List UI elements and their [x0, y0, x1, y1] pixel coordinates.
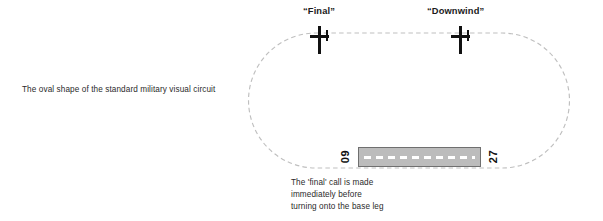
- aircraft-plan-icon-downwind: [450, 26, 476, 54]
- bottom-caption-line-2: immediately before: [291, 189, 471, 201]
- bottom-caption-line-3: turning onto the base leg: [291, 201, 471, 213]
- aircraft-plan-icon-final: [309, 26, 335, 54]
- figure-canvas: The oval shape of the standard military …: [0, 0, 603, 221]
- runway-strip: [358, 147, 481, 167]
- aircraft-tailplane: [467, 30, 469, 41]
- aircraft-tailplane: [326, 30, 328, 41]
- runway-centerline: [364, 156, 475, 159]
- runway-designator-left: 09: [340, 146, 351, 168]
- callout-label-final: “Final”: [303, 6, 335, 16]
- bottom-caption-line-1: The 'final' call is made: [291, 177, 471, 189]
- runway-designator-right: 27: [488, 146, 499, 168]
- bottom-caption: The 'final' call is made immediately bef…: [291, 177, 471, 213]
- left-caption: The oval shape of the standard military …: [22, 84, 230, 97]
- callout-label-downwind: “Downwind”: [427, 6, 484, 16]
- aircraft-fuselage: [459, 26, 462, 54]
- aircraft-fuselage: [318, 26, 321, 54]
